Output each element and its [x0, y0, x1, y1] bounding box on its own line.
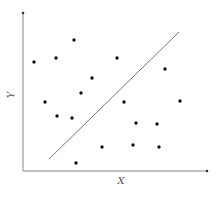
data-point	[157, 145, 160, 148]
data-point	[131, 143, 134, 146]
axes	[22, 12, 209, 173]
x-axis-label: X	[116, 175, 125, 186]
data-point	[70, 116, 73, 119]
data-point	[155, 122, 158, 125]
data-point	[72, 38, 75, 41]
data-points	[32, 38, 181, 164]
y-axis-arrow-icon	[22, 12, 25, 15]
data-point	[134, 121, 137, 124]
data-point	[43, 100, 46, 103]
scatter-chart: Y X	[0, 0, 217, 197]
x-axis-arrow-icon	[206, 170, 209, 173]
data-point	[74, 161, 77, 164]
data-point	[32, 60, 35, 63]
y-axis-label: Y	[5, 90, 16, 98]
data-point	[100, 145, 103, 148]
data-point	[79, 91, 82, 94]
data-point	[122, 100, 125, 103]
data-point	[115, 56, 118, 59]
data-point	[54, 56, 57, 59]
data-point	[163, 67, 166, 70]
separator-line	[49, 32, 179, 159]
data-point	[178, 99, 181, 102]
data-point	[90, 76, 93, 79]
data-point	[55, 114, 58, 117]
